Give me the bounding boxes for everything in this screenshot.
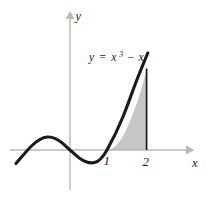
x-axis-label: x <box>191 156 198 170</box>
equation-base: x <box>110 51 117 63</box>
y-axis-label: y <box>74 9 82 23</box>
equation-equals: = <box>99 51 106 63</box>
equation-lhs: y <box>88 51 95 64</box>
equation-minus: − <box>128 51 135 63</box>
equation-exponent: 3 <box>118 50 123 59</box>
x-tick-label-1: 1 <box>104 153 111 168</box>
x-tick-label-2: 2 <box>143 154 150 169</box>
equation-term: x <box>137 51 144 63</box>
curve-equation-label: y = x 3 − x <box>88 47 144 64</box>
y-axis-arrowhead <box>66 11 75 19</box>
figure-container: 1 2 x y y = x 3 − x <box>0 0 209 200</box>
function-plot: 1 2 x y y = x 3 − x <box>0 0 209 200</box>
x-axis-arrowhead <box>186 145 195 154</box>
